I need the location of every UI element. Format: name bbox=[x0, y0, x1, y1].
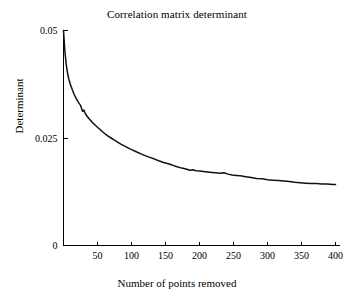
x-axis-label: Number of points removed bbox=[0, 277, 354, 289]
x-tick-label: 200 bbox=[192, 250, 207, 261]
x-tick-label: 300 bbox=[260, 250, 275, 261]
x-tick-label: 50 bbox=[93, 250, 103, 261]
y-tick-label: 0.025 bbox=[35, 133, 58, 144]
data-series-line bbox=[64, 31, 336, 185]
y-tick-label: 0.05 bbox=[40, 25, 58, 36]
x-tick-label: 350 bbox=[294, 250, 309, 261]
x-tick-label: 150 bbox=[158, 250, 173, 261]
x-tick-label: 400 bbox=[328, 250, 343, 261]
x-tick-label: 100 bbox=[124, 250, 139, 261]
chart-figure: Correlation matrix determinant Determina… bbox=[0, 0, 354, 293]
x-tick-label: 250 bbox=[226, 250, 241, 261]
y-tick-label: 0 bbox=[53, 240, 58, 251]
plot-area: 5010015020025030035040000.0250.05 bbox=[0, 0, 354, 293]
